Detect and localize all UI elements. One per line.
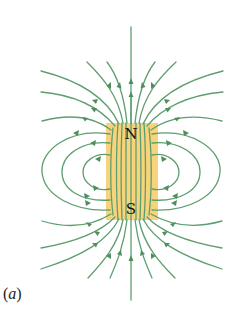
figure-caption: (a) [3,285,22,303]
south-pole-label: S [126,200,136,218]
north-pole-label: N [124,125,137,143]
caption-close-paren: ) [16,285,21,302]
bar-magnet-field-diagram: N S [0,0,248,323]
